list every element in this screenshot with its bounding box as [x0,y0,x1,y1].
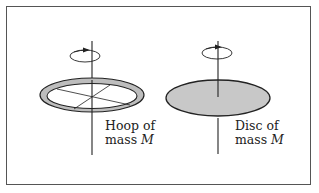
hoop-label-line1: Hoop of [105,119,155,133]
hoop-label: Hoop of mass M [105,119,155,147]
disc-label: Disc of mass M [235,119,284,147]
rotation-diagram [0,0,319,193]
disc-label-line1: Disc of [235,119,284,133]
hoop-label-line2: mass M [105,133,155,147]
disc-label-line2: mass M [235,133,284,147]
